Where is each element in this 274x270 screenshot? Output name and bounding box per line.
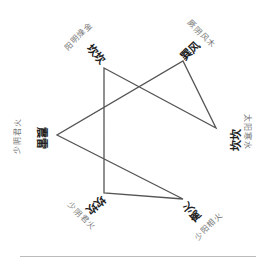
node-left-label: 震雷 bbox=[35, 127, 51, 149]
star-polyline bbox=[57, 61, 216, 199]
bottom-divider bbox=[20, 256, 256, 257]
node-left-sublabel: 少阴君火 bbox=[11, 118, 22, 154]
node-right-label: 坎坎 bbox=[227, 129, 243, 151]
node-right-sublabel: 太阳寒水 bbox=[243, 114, 254, 150]
